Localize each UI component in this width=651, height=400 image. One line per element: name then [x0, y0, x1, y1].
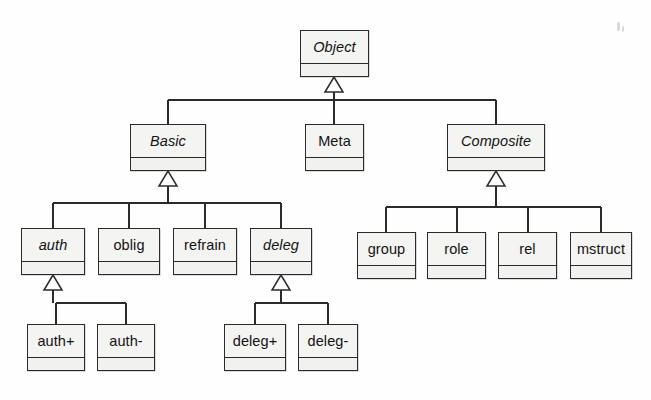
- attribute-compartment-basic: [131, 158, 205, 170]
- scan-artifact: [622, 26, 624, 32]
- name-compartment-delegminus: deleg-: [299, 325, 357, 358]
- inheritance-triangle-object: [325, 77, 343, 92]
- attribute-compartment-auth: [22, 262, 84, 274]
- class-name-mstruct: mstruct: [577, 242, 625, 257]
- attribute-compartment-oblig: [99, 262, 159, 274]
- class-name-meta: Meta: [318, 134, 351, 149]
- class-name-composite: Composite: [461, 134, 531, 149]
- class-box-delegminus[interactable]: deleg-: [298, 324, 358, 371]
- class-name-role: role: [444, 242, 469, 257]
- attribute-compartment-role: [428, 266, 485, 278]
- class-box-rel[interactable]: rel: [498, 232, 557, 279]
- name-compartment-rel: rel: [499, 233, 556, 266]
- class-name-group: group: [368, 242, 406, 257]
- inheritance-triangle-auth: [44, 275, 62, 290]
- name-compartment-meta: Meta: [306, 125, 363, 158]
- name-compartment-auth: auth: [22, 229, 84, 262]
- class-box-composite[interactable]: Composite: [447, 124, 545, 171]
- name-compartment-mstruct: mstruct: [571, 233, 631, 266]
- uml-diagram-canvas: ObjectBasicMetaCompositeauthobligrefrain…: [0, 0, 651, 400]
- class-box-authplus[interactable]: auth+: [27, 324, 85, 371]
- class-name-oblig: oblig: [113, 238, 144, 253]
- attribute-compartment-rel: [499, 266, 556, 278]
- attribute-compartment-composite: [448, 158, 544, 170]
- name-compartment-delegplus: deleg+: [225, 325, 285, 358]
- class-box-auth[interactable]: auth: [21, 228, 85, 275]
- attribute-compartment-delegminus: [299, 358, 357, 370]
- attribute-compartment-deleg: [251, 262, 311, 274]
- name-compartment-authplus: auth+: [28, 325, 84, 358]
- attribute-compartment-delegplus: [225, 358, 285, 370]
- name-compartment-oblig: oblig: [99, 229, 159, 262]
- name-compartment-refrain: refrain: [174, 229, 236, 262]
- name-compartment-object: Object: [301, 31, 368, 64]
- class-name-basic: Basic: [150, 134, 186, 149]
- attribute-compartment-mstruct: [571, 266, 631, 278]
- inheritance-triangle-deleg: [272, 275, 290, 290]
- class-box-oblig[interactable]: oblig: [98, 228, 160, 275]
- class-box-delegplus[interactable]: deleg+: [224, 324, 286, 371]
- class-box-object[interactable]: Object: [300, 30, 369, 77]
- name-compartment-role: role: [428, 233, 485, 266]
- attribute-compartment-group: [358, 266, 415, 278]
- class-name-deleg: deleg: [263, 238, 299, 253]
- attribute-compartment-refrain: [174, 262, 236, 274]
- name-compartment-group: group: [358, 233, 415, 266]
- class-name-rel: rel: [519, 242, 535, 257]
- class-box-basic[interactable]: Basic: [130, 124, 206, 171]
- attribute-compartment-authplus: [28, 358, 84, 370]
- class-name-authplus: auth+: [37, 334, 74, 349]
- class-box-group[interactable]: group: [357, 232, 416, 279]
- class-name-authminus: auth-: [109, 334, 143, 349]
- attribute-compartment-meta: [306, 158, 363, 170]
- inheritance-triangle-basic: [159, 171, 177, 186]
- attribute-compartment-authminus: [98, 358, 154, 370]
- class-box-authminus[interactable]: auth-: [97, 324, 155, 371]
- class-name-object: Object: [313, 40, 356, 55]
- attribute-compartment-object: [301, 64, 368, 76]
- class-box-deleg[interactable]: deleg: [250, 228, 312, 275]
- class-box-role[interactable]: role: [427, 232, 486, 279]
- class-name-auth: auth: [39, 238, 68, 253]
- class-box-refrain[interactable]: refrain: [173, 228, 237, 275]
- class-name-delegminus: deleg-: [308, 334, 349, 349]
- scan-artifact: [617, 22, 620, 31]
- class-box-mstruct[interactable]: mstruct: [570, 232, 632, 279]
- name-compartment-deleg: deleg: [251, 229, 311, 262]
- class-name-delegplus: deleg+: [233, 334, 278, 349]
- class-name-refrain: refrain: [184, 238, 226, 253]
- name-compartment-authminus: auth-: [98, 325, 154, 358]
- inheritance-triangle-composite: [487, 171, 505, 186]
- name-compartment-basic: Basic: [131, 125, 205, 158]
- name-compartment-composite: Composite: [448, 125, 544, 158]
- class-box-meta[interactable]: Meta: [305, 124, 364, 171]
